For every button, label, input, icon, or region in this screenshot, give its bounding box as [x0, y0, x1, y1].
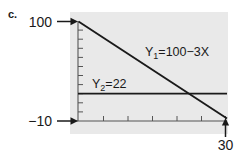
y2-equation-label: Y2=22: [92, 77, 127, 93]
y-bottom-callout-arrow: [57, 117, 78, 124]
plot-svg: 100 −10 30 Y1=100−3X Y2=22: [0, 0, 237, 162]
y1-label-rest: =100−3X: [158, 45, 209, 59]
svg-text:Y2=22: Y2=22: [92, 77, 127, 93]
svg-text:Y1=100−3X: Y1=100−3X: [145, 45, 210, 61]
y1-equation-label: Y1=100−3X: [145, 45, 210, 61]
y-axis-ticks: [78, 30, 83, 112]
series-line-y1: [79, 22, 228, 119]
y-axis-top-label: 100: [29, 14, 53, 30]
x-axis-right-label: 30: [218, 137, 234, 153]
figure-container: c.: [0, 0, 237, 162]
y2-label-rest: =22: [105, 77, 126, 91]
y-top-callout-arrow: [57, 18, 78, 25]
x-axis-ticks: [104, 116, 226, 121]
y-axis-bottom-label: −10: [28, 113, 52, 129]
